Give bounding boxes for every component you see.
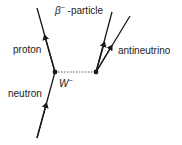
beta-arrow-icon: [96, 44, 104, 72]
right-vertex-dot-icon: [94, 70, 99, 75]
neutron-arrow-icon: [37, 105, 46, 138]
proton-line: [37, 8, 55, 72]
w-superscript: −: [68, 77, 72, 84]
beta-text: -particle: [65, 5, 103, 16]
proton-label: proton: [13, 45, 41, 55]
proton-arrow-icon: [45, 37, 55, 72]
beta-particle-line: [96, 12, 112, 72]
left-vertex-dot-icon: [53, 70, 58, 75]
antineutrino-line: [96, 16, 130, 72]
antineutrino-arrow-icon: [96, 47, 111, 72]
neutron-label: neutron: [8, 89, 42, 99]
neutron-line: [37, 72, 55, 138]
beta-particle-label: β− -particle: [55, 4, 103, 16]
beta-decay-diagram: [0, 0, 182, 145]
antineutrino-label: antineutrino: [118, 46, 170, 56]
w-boson-label: W−: [59, 77, 73, 89]
